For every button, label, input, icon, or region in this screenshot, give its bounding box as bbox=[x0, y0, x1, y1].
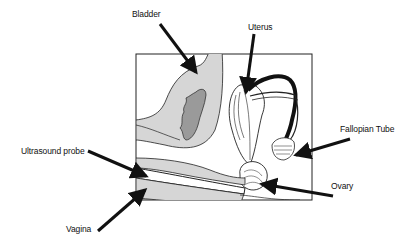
label-ultrasound-probe: Ultrasound probe bbox=[21, 146, 85, 156]
ovary-shape bbox=[240, 162, 268, 190]
vagina-arrow bbox=[98, 190, 145, 231]
label-fallopian-tube: Fallopian Tube bbox=[340, 124, 394, 134]
label-vagina: Vagina bbox=[66, 224, 91, 234]
label-ovary: Ovary bbox=[331, 181, 353, 191]
label-bladder: Bladder bbox=[132, 9, 161, 19]
label-uterus: Uterus bbox=[248, 22, 272, 32]
